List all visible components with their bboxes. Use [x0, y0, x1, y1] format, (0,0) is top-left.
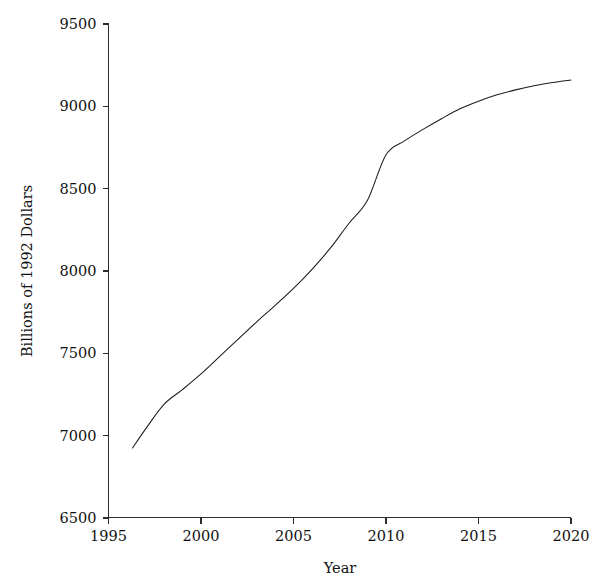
y-tick-label: 9500: [60, 16, 97, 32]
y-axis-title: Billions of 1992 Dollars: [19, 185, 35, 357]
y-tick-label: 8500: [60, 181, 97, 197]
y-tick-label: 7000: [60, 428, 97, 444]
x-tick-label: 2020: [553, 528, 590, 544]
y-tick-label: 7500: [60, 345, 97, 361]
x-tick-label: 2005: [275, 528, 312, 544]
x-tick-label: 2000: [183, 528, 220, 544]
y-axis-tick-marks: [103, 24, 109, 518]
x-axis: 199520002005201020152020: [90, 518, 589, 545]
y-axis-tick-labels: 6500700075008000850090009500: [60, 16, 97, 526]
y-axis: 6500700075008000850090009500: [60, 16, 109, 526]
y-tick-label: 6500: [60, 510, 97, 526]
line-chart: 6500700075008000850090009500 19952000200…: [0, 0, 606, 587]
x-tick-label: 1995: [90, 528, 127, 544]
x-axis-tick-labels: 199520002005201020152020: [90, 528, 589, 544]
data-series-line: [133, 80, 571, 448]
y-tick-label: 8000: [60, 263, 97, 279]
y-tick-label: 9000: [60, 98, 97, 114]
x-axis-tick-marks: [109, 518, 572, 524]
x-tick-label: 2010: [368, 528, 405, 544]
data-series-group: [133, 80, 571, 448]
x-tick-label: 2015: [460, 528, 497, 544]
x-axis-title: Year: [323, 560, 357, 576]
chart-figure: 6500700075008000850090009500 19952000200…: [0, 0, 606, 587]
